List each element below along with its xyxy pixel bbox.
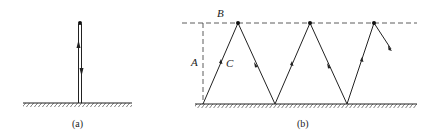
arrow-down-icon — [80, 68, 84, 76]
panel-b: B A C (b) — [182, 7, 417, 130]
arrow-up-icon — [77, 40, 81, 48]
physics-diagram: (a) B A C (b) — [0, 0, 430, 139]
panel-a: (a) — [23, 21, 132, 130]
ball-dot — [372, 21, 376, 25]
label-b: B — [217, 7, 224, 19]
caption-b: (b) — [297, 118, 309, 130]
caption-a: (a) — [72, 118, 83, 130]
label-c: C — [226, 57, 234, 69]
arrow-up-icon — [360, 57, 364, 62]
ball-dot — [78, 21, 82, 25]
ball-dot — [236, 21, 240, 25]
label-a: A — [190, 56, 198, 68]
ball-dot — [308, 21, 312, 25]
